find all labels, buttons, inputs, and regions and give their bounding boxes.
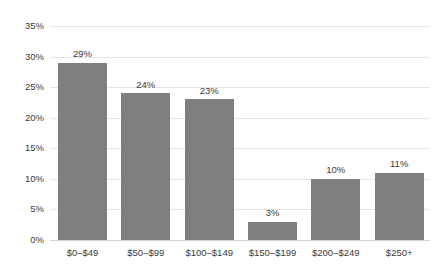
y-axis-tick-label: 0% bbox=[0, 235, 44, 245]
y-axis-tick-label: 35% bbox=[0, 21, 44, 31]
bar-chart: 0% 5% 10% 15% 20% 25% 30% 35% 29% 24% 23… bbox=[0, 0, 440, 268]
bar-group: 10% bbox=[311, 0, 360, 240]
gridline-baseline bbox=[50, 240, 430, 241]
bar-group: 3% bbox=[248, 0, 297, 240]
bar[interactable] bbox=[58, 63, 107, 240]
y-axis-tick-label: 15% bbox=[0, 144, 44, 154]
bar-value-label: 23% bbox=[177, 86, 242, 96]
bar[interactable] bbox=[248, 222, 297, 240]
bar-group: 11% bbox=[375, 0, 424, 240]
x-axis-tick-label: $250+ bbox=[356, 248, 440, 258]
y-axis-tick-label: 20% bbox=[0, 113, 44, 123]
bar[interactable] bbox=[375, 173, 424, 240]
y-axis-tick-label: 5% bbox=[0, 205, 44, 215]
bar-value-label: 10% bbox=[303, 165, 368, 175]
bar-value-label: 24% bbox=[113, 80, 178, 90]
bar-value-label: 11% bbox=[367, 159, 432, 169]
bar-group: 29% bbox=[58, 0, 107, 240]
bar[interactable] bbox=[185, 99, 234, 240]
y-axis-tick-label: 10% bbox=[0, 174, 44, 184]
y-axis-tick-label: 25% bbox=[0, 82, 44, 92]
y-axis-tick-label: 30% bbox=[0, 52, 44, 62]
bar-group: 24% bbox=[121, 0, 170, 240]
bar[interactable] bbox=[121, 93, 170, 240]
bar[interactable] bbox=[311, 179, 360, 240]
bars-layer: 29% 24% 23% 3% 10% 11% bbox=[50, 0, 430, 240]
bar-value-label: 3% bbox=[240, 208, 305, 218]
bar-value-label: 29% bbox=[50, 49, 115, 59]
bar-group: 23% bbox=[185, 0, 234, 240]
